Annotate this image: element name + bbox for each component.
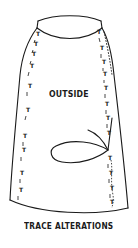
svg-text:T: T [110, 198, 115, 205]
svg-text:T: T [28, 82, 33, 89]
left-tailor-tacks: T T T T T T T T T T [19, 30, 41, 193]
outside-label: OUTSIDE [49, 88, 89, 99]
waistband-right-end [101, 21, 102, 28]
waistband-bottom-edge [37, 28, 102, 39]
svg-text:T: T [103, 70, 108, 77]
svg-text:T: T [22, 146, 27, 153]
svg-text:T: T [104, 84, 109, 91]
skirt-outline-drawing: T T T T T T T T T T T T T T T T T T T T … [0, 0, 138, 248]
svg-text:T: T [105, 100, 110, 107]
svg-text:T: T [107, 129, 112, 136]
thread-loop [51, 142, 108, 163]
svg-text:T: T [36, 30, 41, 37]
svg-text:T: T [30, 62, 35, 69]
svg-text:T: T [102, 58, 107, 65]
svg-text:T: T [108, 154, 113, 161]
thread-tail [88, 130, 108, 150]
svg-text:T: T [23, 132, 28, 139]
svg-text:T: T [106, 114, 111, 121]
svg-text:T: T [26, 106, 31, 113]
waistband-left-end [37, 21, 38, 28]
right-tailor-tacks: T T T T T T T T T T T T [97, 28, 115, 205]
svg-text:T: T [19, 186, 24, 193]
svg-text:T: T [20, 169, 25, 176]
skirt-diagram: T T T T T T T T T T T T T T T T T T T T … [0, 0, 138, 248]
waistband-top-edge [38, 16, 101, 21]
caption-trace-alterations: TRACE ALTERATIONS [24, 220, 113, 231]
svg-text:T: T [100, 44, 105, 51]
